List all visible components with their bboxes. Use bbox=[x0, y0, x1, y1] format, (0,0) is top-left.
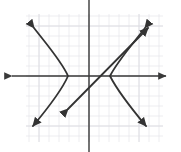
coordinate-plane-svg bbox=[0, 0, 181, 152]
graph-figure bbox=[0, 0, 181, 152]
